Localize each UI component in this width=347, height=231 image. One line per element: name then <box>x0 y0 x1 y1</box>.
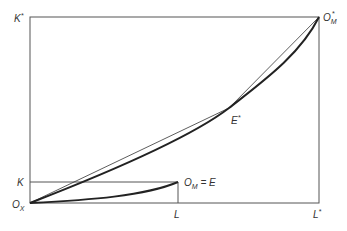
straight-ray-ox-estar-omstar <box>30 17 319 203</box>
label-k: K <box>17 177 25 188</box>
edgeworth-box-diagram: K* K OX L L* OM* OM = E E* <box>0 0 347 231</box>
label-k-star: K* <box>14 12 24 24</box>
box-frame <box>30 17 319 203</box>
contract-curve-large <box>30 17 319 203</box>
label-origin-x: OX <box>12 199 25 212</box>
label-origin-m-equals-e: OM = E <box>184 177 216 190</box>
label-l-star: L* <box>313 208 322 220</box>
label-l: L <box>174 209 180 220</box>
label-origin-m-star: OM* <box>323 10 337 25</box>
label-e-star: E* <box>231 114 241 126</box>
